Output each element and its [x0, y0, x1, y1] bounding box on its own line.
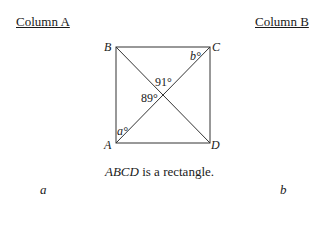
vertex-label-d: D	[210, 138, 220, 152]
vertex-label-a: A	[103, 138, 112, 152]
caption-rest: is a rectangle.	[139, 164, 214, 179]
figure-caption: ABCD is a rectangle.	[0, 164, 319, 180]
angle-label-91: 91°	[155, 75, 172, 89]
vertex-label-b: B	[104, 40, 112, 54]
caption-abcd: ABCD	[105, 164, 139, 179]
quantity-column-b: b	[280, 182, 287, 198]
angle-label-89: 89°	[141, 91, 158, 105]
vertex-label-c: C	[212, 40, 221, 54]
quantity-column-a: a	[40, 182, 47, 198]
angle-label-b: b°	[190, 49, 201, 63]
angle-label-a: a°	[117, 124, 128, 138]
